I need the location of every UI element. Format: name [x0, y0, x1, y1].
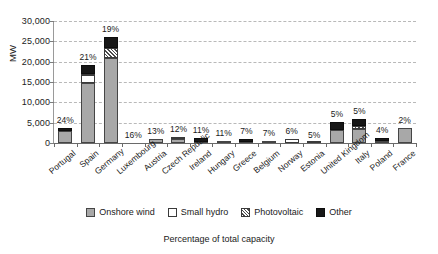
bar-segment-other	[375, 138, 389, 142]
x-tick-mark	[99, 143, 100, 147]
x-tick-mark	[77, 143, 78, 147]
x-tick-mark	[371, 143, 372, 147]
bar-segment-wind	[58, 131, 72, 143]
x-tick-mark	[122, 143, 123, 147]
x-tick-mark	[212, 143, 213, 147]
y-tick-mark	[50, 62, 54, 63]
bar-segment-hydro	[307, 141, 321, 143]
bar-segment-wind	[81, 83, 95, 143]
bar-segment-other	[81, 65, 95, 74]
plot-area: 24%21%19%16%13%12%11%11%7%7%6%5%5%5%4%2%	[54, 21, 416, 143]
x-tick-mark	[393, 143, 394, 147]
x-tick-mark	[235, 143, 236, 147]
gridline	[54, 21, 416, 22]
legend-swatch-pv-icon	[241, 208, 250, 217]
x-tick-mark	[303, 143, 304, 147]
bar-percentage-label: 2%	[388, 115, 422, 125]
legend-item[interactable]: Onshore wind	[86, 207, 155, 217]
legend-swatch-wind-icon	[86, 208, 95, 217]
bar-segment-wind	[330, 130, 344, 143]
y-tick-label: 25,000	[22, 36, 50, 46]
legend-label: Onshore wind	[99, 207, 155, 217]
bar-segment-other	[239, 139, 253, 142]
bar-percentage-label: 5%	[342, 106, 376, 116]
bar-segment-pv	[104, 48, 118, 57]
bar-segment-wind	[398, 128, 412, 143]
legend-label: Photovoltaic	[254, 207, 303, 217]
chart-figure: MW 30,00025,00020,00015,00010,0005,0000 …	[0, 0, 438, 254]
bar-segment-wind	[171, 139, 185, 143]
x-tick-mark	[167, 143, 168, 147]
bar-segment-hydro	[81, 75, 95, 83]
bar-percentage-label: 5%	[297, 130, 331, 140]
y-tick-label: 5,000	[27, 118, 50, 128]
legend-label: Other	[329, 207, 352, 217]
bar-segment-hydro	[171, 137, 185, 140]
bar-segment-other	[104, 37, 118, 48]
bar-percentage-label: 21%	[71, 52, 105, 62]
x-tick-mark	[258, 143, 259, 147]
chart-legend: Onshore windSmall hydroPhotovoltaicOther	[0, 207, 438, 217]
x-tick-mark	[280, 143, 281, 147]
legend-item[interactable]: Other	[316, 207, 352, 217]
y-tick-mark	[50, 82, 54, 83]
legend-swatch-other-icon	[316, 208, 325, 217]
x-tick-mark	[416, 143, 417, 147]
x-tick-mark	[326, 143, 327, 147]
y-tick-mark	[50, 41, 54, 42]
y-tick-mark	[50, 102, 54, 103]
y-tick-label: 20,000	[22, 57, 50, 67]
legend-swatch-hydro-icon	[168, 208, 177, 217]
legend-item[interactable]: Photovoltaic	[241, 207, 303, 217]
y-tick-label: 30,000	[22, 16, 50, 26]
y-tick-label: 10,000	[22, 97, 50, 107]
legend-item[interactable]: Small hydro	[168, 207, 229, 217]
legend-label: Small hydro	[181, 207, 229, 217]
y-tick-mark	[50, 21, 54, 22]
bar-percentage-label: 24%	[48, 115, 82, 125]
y-axis-tick-labels: 30,00025,00020,00015,00010,0005,0000	[0, 21, 50, 143]
bar-segment-wind	[262, 141, 276, 143]
bar-percentage-label: 4%	[365, 125, 399, 135]
x-tick-mark	[54, 143, 55, 147]
bar-segment-other	[330, 122, 344, 130]
bar-percentage-label: 19%	[94, 24, 128, 34]
y-tick-label: 15,000	[22, 77, 50, 87]
bar-segment-other	[58, 128, 72, 131]
chart-caption: Percentage of total capacity	[0, 234, 438, 244]
bar-segment-wind	[217, 141, 231, 143]
